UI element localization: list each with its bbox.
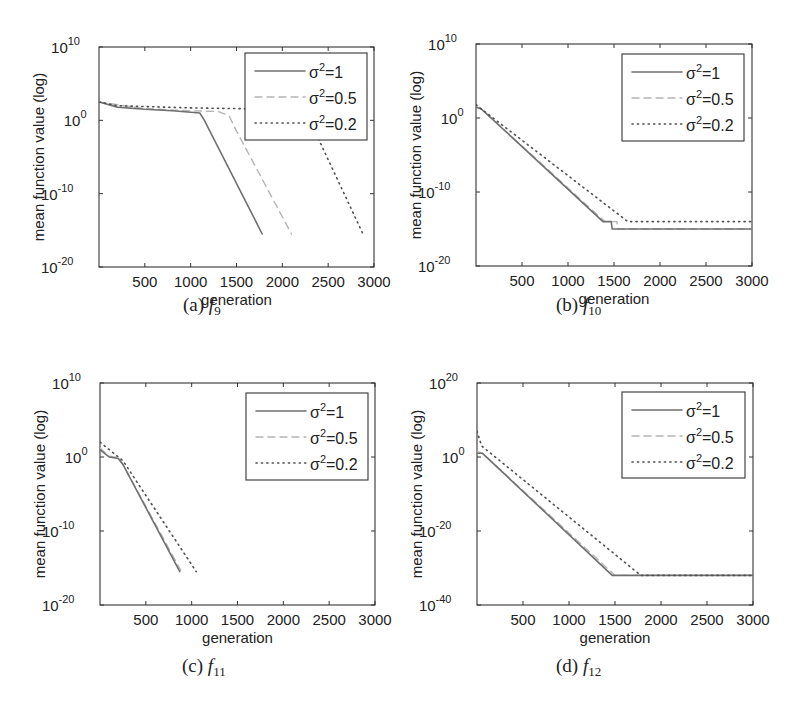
legend-label: σ2=0.5 <box>686 426 734 446</box>
y-tick-label: 1010 <box>51 35 80 56</box>
y-axis-label: mean function value (log) <box>408 410 425 578</box>
x-tick-label: 2500 <box>311 273 344 290</box>
y-tick-label: 100 <box>441 106 464 127</box>
chart-panel-c: 50010001500200025003000101010010-1010-20… <box>31 371 392 646</box>
x-tick-label: 2500 <box>312 611 345 628</box>
y-tick-label: 100 <box>442 445 465 466</box>
caption-label: (c) <box>182 655 203 676</box>
x-tick-label: 3000 <box>357 273 390 290</box>
legend-label: σ2=0.2 <box>686 452 734 472</box>
x-tick-label: 1000 <box>174 273 207 290</box>
caption-sub: 12 <box>588 664 601 679</box>
legend: σ2=1σ2=0.5σ2=0.2 <box>245 53 367 140</box>
series-line-solid <box>99 102 262 234</box>
y-tick-label: 10-40 <box>419 593 452 614</box>
legend: σ2=1σ2=0.5σ2=0.2 <box>246 393 368 480</box>
legend-label: σ2=1 <box>686 400 720 420</box>
x-tick-label: 500 <box>509 272 534 289</box>
y-tick-label: 100 <box>65 445 88 466</box>
caption-label: (a) <box>183 294 204 315</box>
x-tick-label: 1000 <box>552 611 585 628</box>
x-tick-label: 1000 <box>551 272 584 289</box>
x-tick-label: 1500 <box>597 272 630 289</box>
caption-a: (a) f9 <box>183 294 221 319</box>
caption-d: (d) f12 <box>556 655 601 680</box>
x-tick-label: 2500 <box>689 272 722 289</box>
legend-label: σ2=0.5 <box>686 88 734 108</box>
x-tick-label: 500 <box>132 273 157 290</box>
series-line-solid <box>100 450 180 572</box>
y-tick-label: 10-20 <box>41 255 74 276</box>
chart-panel-b: 50010001500200025003000101010010-1010-20… <box>407 32 769 307</box>
caption-c: (c) f11 <box>182 655 226 680</box>
x-tick-label: 3000 <box>358 611 391 628</box>
y-axis-label: mean function value (log) <box>407 71 424 239</box>
legend: σ2=1σ2=0.5σ2=0.2 <box>622 54 744 141</box>
legend-label: σ2=0.2 <box>686 114 734 134</box>
y-tick-label: 100 <box>64 108 87 129</box>
legend-label: σ2=0.2 <box>310 453 358 473</box>
caption-b: (b) f10 <box>556 294 601 319</box>
x-tick-label: 2000 <box>643 272 676 289</box>
caption-sub: 10 <box>588 303 601 318</box>
legend-label: σ2=0.2 <box>309 113 357 133</box>
chart-panel-d: 50010001500200025003000102010010-2010-40… <box>408 371 770 646</box>
x-tick-label: 1000 <box>175 611 208 628</box>
x-tick-label: 2000 <box>266 273 299 290</box>
y-axis-label: mean function value (log) <box>31 410 48 578</box>
y-tick-label: 10-20 <box>42 593 75 614</box>
legend-label: σ2=0.5 <box>309 87 357 107</box>
x-axis-label: generation <box>202 629 273 646</box>
figure-svg: 50010001500200025003000101010010-1010-20… <box>0 0 803 722</box>
y-axis-label: mean function value (log) <box>30 73 47 241</box>
chart-panel-a: 50010001500200025003000101010010-1010-20… <box>30 35 391 308</box>
x-tick-label: 2000 <box>644 611 677 628</box>
x-axis-label: generation <box>580 629 651 646</box>
y-tick-label: 1010 <box>428 32 457 53</box>
legend: σ2=1σ2=0.5σ2=0.2 <box>622 392 745 478</box>
x-tick-label: 1500 <box>221 611 254 628</box>
y-tick-label: 10-20 <box>418 254 451 275</box>
x-tick-label: 2500 <box>690 611 723 628</box>
legend-label: σ2=1 <box>310 401 344 421</box>
caption-label: (d) <box>556 655 578 676</box>
y-tick-label: 1020 <box>429 371 458 392</box>
x-tick-label: 1500 <box>598 611 631 628</box>
x-tick-label: 2000 <box>267 611 300 628</box>
x-tick-label: 500 <box>510 611 535 628</box>
x-tick-label: 500 <box>133 611 158 628</box>
series-line-dotted <box>100 442 196 572</box>
y-tick-label: 1010 <box>52 371 81 392</box>
x-tick-label: 3000 <box>735 272 768 289</box>
caption-sub: 11 <box>213 664 226 679</box>
caption-label: (b) <box>556 294 578 315</box>
x-tick-label: 3000 <box>736 611 769 628</box>
caption-sub: 9 <box>214 303 221 318</box>
x-tick-label: 1500 <box>220 273 253 290</box>
legend-label: σ2=1 <box>309 61 343 81</box>
legend-label: σ2=0.5 <box>310 427 358 447</box>
legend-label: σ2=1 <box>686 62 720 82</box>
